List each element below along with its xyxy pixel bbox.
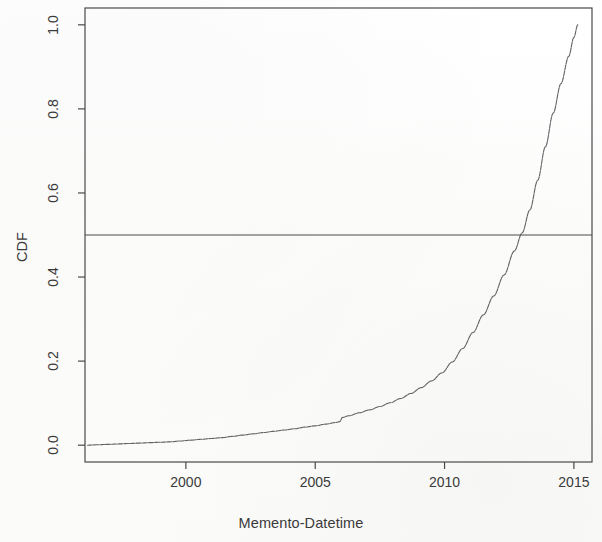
axis-ticks xyxy=(78,25,574,469)
cdf-figure: 0.00.20.40.60.81.0 2000200520102015 Meme… xyxy=(0,0,602,542)
x-tick-label: 2000 xyxy=(170,474,201,490)
y-tick-label-text: 1.0 xyxy=(45,15,61,34)
y-tick-label: 0.6 xyxy=(31,184,75,202)
y-tick-label-text: 0.4 xyxy=(45,267,61,286)
x-axis-title: Memento-Datetime xyxy=(0,515,602,531)
y-tick-label: 0.0 xyxy=(31,436,75,454)
y-tick-label: 0.4 xyxy=(31,268,75,286)
y-tick-label-text: 0.6 xyxy=(45,183,61,202)
y-tick-label: 0.2 xyxy=(31,352,75,370)
x-tick-label: 2015 xyxy=(558,474,589,490)
y-tick-label-text: 0.8 xyxy=(45,99,61,118)
x-tick-label: 2010 xyxy=(429,474,460,490)
y-tick-label-text: 0.0 xyxy=(45,435,61,454)
y-axis-title: CDF xyxy=(14,232,30,262)
y-tick-label: 1.0 xyxy=(31,16,75,34)
x-tick-label: 2005 xyxy=(300,474,331,490)
plot-canvas xyxy=(0,0,602,542)
y-tick-label-text: 0.2 xyxy=(45,351,61,370)
y-tick-label: 0.8 xyxy=(31,100,75,118)
